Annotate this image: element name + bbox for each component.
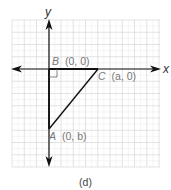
x-axis-label: x bbox=[162, 62, 170, 76]
point-c-name: C bbox=[98, 70, 106, 82]
point-b-name: B bbox=[52, 55, 59, 67]
coordinate-diagram: y x B (0, 0) C (a, 0) A (0, b) (d) bbox=[0, 0, 171, 190]
y-axis-label: y bbox=[44, 5, 52, 19]
figure-caption: (d) bbox=[79, 176, 92, 188]
point-a-name: A bbox=[48, 130, 56, 142]
grid bbox=[12, 20, 160, 167]
point-b-label: B (0, 0) bbox=[52, 51, 90, 68]
point-a-coords: (0, b) bbox=[62, 130, 87, 142]
point-c-coords: (a, 0) bbox=[112, 70, 137, 82]
right-angle-marker bbox=[49, 69, 57, 77]
point-b-coords: (0, 0) bbox=[65, 55, 90, 67]
